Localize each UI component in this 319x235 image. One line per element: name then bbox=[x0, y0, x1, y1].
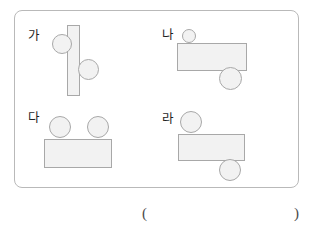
answer-blank[interactable]: ( ) bbox=[14, 203, 299, 223]
ga-circle-lower-right bbox=[78, 59, 99, 80]
figure-page: 가 나 다 라 ( ) bbox=[0, 0, 319, 235]
ga-rectangle-vertical bbox=[67, 25, 80, 96]
figure-frame: 가 나 다 라 bbox=[14, 10, 299, 188]
answer-close-paren: ) bbox=[294, 203, 299, 223]
na-circle-top-small bbox=[182, 29, 196, 43]
ra-rectangle-horizontal bbox=[178, 134, 245, 161]
ra-circle-top-left bbox=[180, 111, 202, 133]
group-label-da: 다 bbox=[28, 112, 40, 125]
da-circle-top-right bbox=[87, 116, 109, 138]
na-circle-bottom-large bbox=[219, 67, 242, 90]
da-circle-top-left bbox=[49, 116, 71, 138]
group-label-ra: 라 bbox=[162, 113, 174, 126]
da-rectangle-horizontal bbox=[44, 139, 112, 168]
na-rectangle-horizontal bbox=[177, 43, 247, 71]
ga-circle-upper-left bbox=[52, 34, 72, 54]
group-label-ga: 가 bbox=[28, 30, 40, 43]
answer-open-paren: ( bbox=[142, 203, 147, 223]
group-label-na: 나 bbox=[162, 29, 174, 42]
ra-circle-bottom-right bbox=[219, 159, 241, 181]
